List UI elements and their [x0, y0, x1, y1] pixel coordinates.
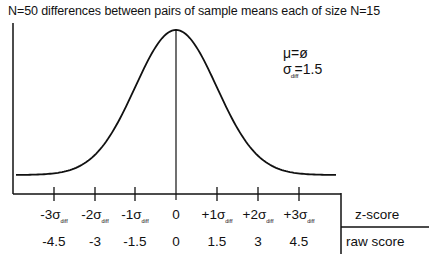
mean-annotation: μ=ø [283, 46, 308, 61]
raw-tick-label: -1.5 [123, 234, 146, 249]
z-tick-label: +2σdiff [243, 207, 274, 224]
z-tick-label: -2σdiff [81, 207, 109, 224]
sigma-value: =1.5 [295, 61, 323, 77]
z-tick-label: +3σdiff [284, 207, 315, 224]
z-tick-label: -1σdiff [121, 207, 149, 224]
raw-tick-label: 3 [254, 234, 262, 249]
z-tick-label: -3σdiff [40, 207, 68, 224]
raw-tick-label: 0 [172, 234, 180, 249]
z-score-row-label: z-score [355, 207, 399, 222]
raw-tick-label: -4.5 [42, 234, 65, 249]
z-tick-label: 0 [172, 207, 180, 222]
raw-tick-label: 4.5 [290, 234, 309, 249]
z-tick-label: +1σdiff [202, 207, 233, 224]
sigma-annotation: σdiff=1.5 [283, 62, 322, 84]
raw-tick-label: 1.5 [208, 234, 227, 249]
raw-score-row-label: raw score [346, 234, 405, 249]
raw-tick-label: -3 [89, 234, 101, 249]
